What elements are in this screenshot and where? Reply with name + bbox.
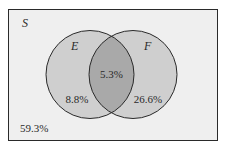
intersection-value: 5.3% (100, 68, 123, 80)
set-f-only-value: 26.6% (134, 93, 162, 105)
universe-label: S (22, 16, 28, 30)
set-e-only-value: 8.8% (66, 93, 89, 105)
venn-diagram: S E F 5.3% 8.8% 26.6% 59.3% (0, 0, 225, 149)
outside-value: 59.3% (20, 122, 48, 134)
set-e-label: E (70, 39, 79, 53)
set-f-label: F (143, 39, 152, 53)
